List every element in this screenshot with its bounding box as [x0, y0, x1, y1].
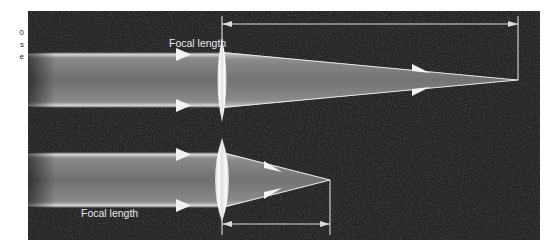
figure-page: 0 s e	[0, 0, 559, 252]
margin-caption: 0 s e	[0, 27, 24, 87]
incoming-beam-top-fade	[28, 52, 224, 108]
focal-length-label-bottom: Focal length	[81, 207, 138, 219]
optics-diagram-svg	[28, 11, 540, 240]
focal-length-label-top: Focal length	[169, 37, 226, 49]
margin-caption-line-2: s	[0, 39, 24, 51]
optics-figure-panel: Focal length Focal length	[28, 11, 540, 240]
margin-caption-line-1: 0	[0, 27, 24, 39]
incoming-beam-bottom-fade	[28, 152, 224, 208]
margin-caption-line-3: e	[0, 51, 24, 63]
